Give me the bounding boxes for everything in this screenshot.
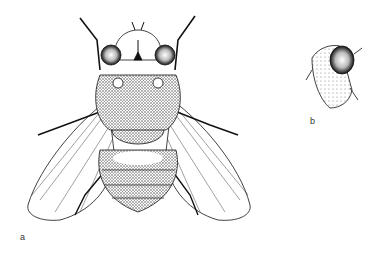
head-lateral-view	[306, 46, 362, 109]
front-right-leg	[175, 16, 195, 70]
fly-dorsal-view	[28, 16, 250, 220]
fly-illustration-figure	[0, 0, 384, 253]
left-eye	[101, 45, 121, 65]
thorax	[96, 75, 181, 130]
antennae	[132, 22, 144, 30]
lateral-eye	[330, 46, 354, 74]
front-left-leg	[80, 18, 100, 70]
panel-label-a: a	[20, 232, 25, 242]
panel-label-b: b	[310, 116, 315, 126]
right-eye	[155, 45, 175, 65]
